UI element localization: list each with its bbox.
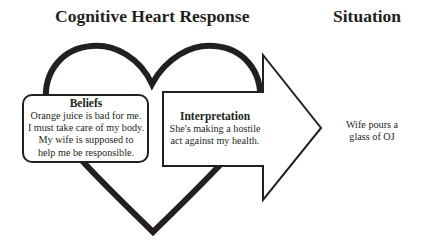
situation-line: glass of OJ: [332, 131, 412, 143]
situation-content: Wife pours a glass of OJ: [332, 119, 412, 143]
interpretation-line: act against my health.: [167, 135, 263, 147]
situation-line: Wife pours a: [332, 119, 412, 131]
beliefs-line: My wife is supposed to: [24, 134, 148, 146]
beliefs-content: Beliefs Orange juice is bad for me. I mu…: [24, 97, 148, 159]
interpretation-content: Interpretation She's making a hostile ac…: [165, 110, 267, 147]
interpretation-heading: Interpretation: [167, 110, 263, 123]
beliefs-line: help me be responsible.: [24, 147, 148, 159]
beliefs-line: Orange juice is bad for me.: [24, 110, 148, 122]
beliefs-heading: Beliefs: [24, 97, 148, 110]
beliefs-line: I must take care of my body.: [24, 122, 148, 134]
interpretation-line: She's making a hostile: [167, 123, 263, 135]
